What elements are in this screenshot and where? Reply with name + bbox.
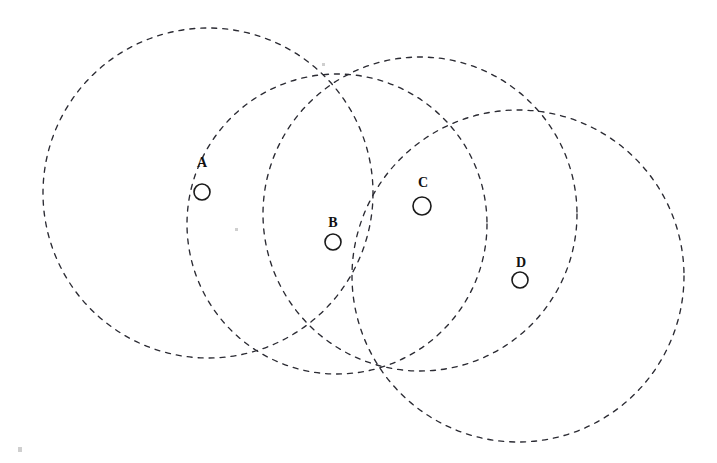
coverage-circle-d [352,110,684,442]
coverage-circle-group [43,28,684,442]
node-b[interactable]: B [325,215,341,250]
node-a[interactable]: A [194,155,210,200]
scan-speck [235,228,238,231]
node-label-c: C [418,175,428,190]
scan-speck [322,63,325,66]
node-marker-c[interactable] [413,197,431,215]
scan-speck-group [18,63,325,452]
node-label-a: A [197,155,208,170]
node-marker-b[interactable] [325,234,341,250]
node-marker-a[interactable] [194,184,210,200]
node-marker-d[interactable] [512,272,528,288]
node-d[interactable]: D [512,255,528,288]
node-label-b: B [328,215,337,230]
node-label-d: D [516,255,526,270]
diagram-canvas: A B C D [0,0,717,463]
coverage-circle-a [43,28,373,358]
coverage-circles-diagram: A B C D [0,0,717,463]
scan-speck [18,447,22,452]
node-c[interactable]: C [413,175,431,215]
